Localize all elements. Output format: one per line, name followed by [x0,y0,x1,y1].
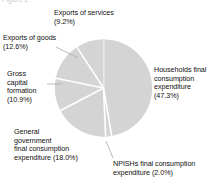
slice-label-npishs: NPISHs final consumptionexpenditure (2.0… [113,160,210,177]
slice-label-general-government: Generalgovernmentfinal consumptionexpend… [14,128,94,162]
slice-label-exports-of-goods: Exports of goods(12.6%) [3,34,69,51]
slice-label-gross-capital-formation: Grosscapitalformation(10.9%) [7,70,52,104]
leader-line-npishs [106,141,113,158]
pie-chart-figure: Figure 2 Exports of services(9.2%) Expor… [0,0,211,185]
slice-label-exports-of-services: Exports of services(9.2%) [54,9,142,26]
pie-slice-households [104,40,152,136]
slice-label-households: Households finalconsumptionexpenditure(4… [154,66,211,100]
